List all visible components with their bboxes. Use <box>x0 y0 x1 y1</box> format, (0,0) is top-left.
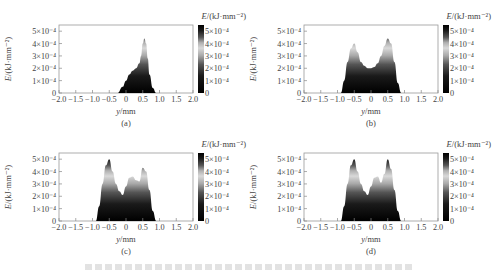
x-tick-label: −0.5 <box>347 223 362 232</box>
colorbar-tick-label: 4×10⁻⁴ <box>450 40 474 49</box>
colorbar-tick-label: 4×10⁻⁴ <box>205 168 229 177</box>
colorbar-tick-label: 5×10⁻⁴ <box>205 155 229 164</box>
x-tick-label: 0.5 <box>138 223 148 232</box>
colorbar-tick-label: 4×10⁻⁴ <box>205 40 229 49</box>
colorbar-label: E/(kJ·mm⁻²) <box>446 11 492 21</box>
x-tick-label: −1.5 <box>313 95 328 104</box>
x-tick-label: 0 <box>369 95 373 104</box>
x-tick-label: 0 <box>369 223 373 232</box>
y-tick-label: 5×10⁻⁴ <box>32 155 56 164</box>
x-tick-label: 1.0 <box>399 95 409 104</box>
x-tick-label: −0.5 <box>102 95 117 104</box>
y-tick-label: 2×10⁻⁴ <box>32 192 56 201</box>
colorbar-tick-label: 5×10⁻⁴ <box>450 155 474 164</box>
x-tick-label: 0 <box>124 95 128 104</box>
colorbar-tick-label: 5×10⁻⁴ <box>205 27 229 36</box>
y-tick-label: 1×10⁻⁴ <box>32 77 56 86</box>
panel-d: 01×10⁻⁴2×10⁻⁴3×10⁻⁴4×10⁻⁴5×10⁻⁴−2.0−1.5−… <box>245 128 494 258</box>
chart-svg: 01×10⁻⁴2×10⁻⁴3×10⁻⁴4×10⁻⁴5×10⁻⁴−2.0−1.5−… <box>0 128 249 258</box>
x-tick-label: 1.5 <box>416 223 426 232</box>
y-tick-label: 1×10⁻⁴ <box>277 205 301 214</box>
colorbar <box>198 153 204 221</box>
colorbar-tick-label: 3×10⁻⁴ <box>205 180 229 189</box>
x-tick-label: 0 <box>124 223 128 232</box>
x-tick-label: 1.5 <box>171 95 181 104</box>
y-tick-label: 3×10⁻⁴ <box>277 52 301 61</box>
colorbar-tick-label: 3×10⁻⁴ <box>450 52 474 61</box>
y-axis-label: E/(kJ·mm⁻²) <box>3 165 13 211</box>
x-tick-label: −1.5 <box>68 223 83 232</box>
colorbar <box>443 153 449 221</box>
x-tick-label: 2.0 <box>433 95 443 104</box>
colorbar-tick-label: 2×10⁻⁴ <box>450 64 474 73</box>
x-tick-label: 2.0 <box>188 223 198 232</box>
y-axis-label: E/(kJ·mm⁻²) <box>248 165 258 211</box>
x-tick-label: 0.5 <box>383 95 393 104</box>
panel-a: 01×10⁻⁴2×10⁻⁴3×10⁻⁴4×10⁻⁴5×10⁻⁴−2.0−1.5−… <box>0 0 249 130</box>
chart-svg: 01×10⁻⁴2×10⁻⁴3×10⁻⁴4×10⁻⁴5×10⁻⁴−2.0−1.5−… <box>245 128 494 258</box>
x-tick-label: −2.0 <box>52 223 67 232</box>
y-tick-label: 5×10⁻⁴ <box>32 27 56 36</box>
x-tick-label: −1.5 <box>313 223 328 232</box>
colorbar-tick-label: 3×10⁻⁴ <box>205 52 229 61</box>
x-tick-label: 1.5 <box>416 95 426 104</box>
y-tick-label: 3×10⁻⁴ <box>277 180 301 189</box>
x-axis-label: y/mm <box>115 106 136 116</box>
colorbar <box>443 25 449 93</box>
x-tick-label: 0.5 <box>383 223 393 232</box>
colorbar-tick-label: 2×10⁻⁴ <box>205 64 229 73</box>
x-tick-label: −1.0 <box>330 95 345 104</box>
figure-caption-illegible <box>85 264 415 270</box>
y-tick-label: 5×10⁻⁴ <box>277 27 301 36</box>
x-axis-label: y/mm <box>115 234 136 244</box>
x-tick-label: −1.0 <box>85 95 100 104</box>
colorbar-tick-label: 1×10⁻⁴ <box>205 77 229 86</box>
y-axis-label: E/(kJ·mm⁻²) <box>248 37 258 83</box>
y-tick-label: 1×10⁻⁴ <box>277 77 301 86</box>
x-tick-label: 0.5 <box>138 95 148 104</box>
x-tick-label: −2.0 <box>297 223 312 232</box>
panel-label: (a) <box>121 118 131 128</box>
y-tick-label: 3×10⁻⁴ <box>32 52 56 61</box>
y-axis-label: E/(kJ·mm⁻²) <box>3 37 13 83</box>
x-tick-label: 2.0 <box>188 95 198 104</box>
colorbar-tick-label: 0 <box>205 89 209 98</box>
x-axis-label: y/mm <box>360 234 381 244</box>
panel-label: (c) <box>121 246 131 256</box>
y-tick-label: 4×10⁻⁴ <box>277 40 301 49</box>
x-tick-label: 1.0 <box>399 223 409 232</box>
panel-label: (b) <box>366 118 376 128</box>
y-tick-label: 5×10⁻⁴ <box>277 155 301 164</box>
x-tick-label: 1.0 <box>154 223 164 232</box>
x-tick-label: 2.0 <box>433 223 443 232</box>
y-tick-label: 1×10⁻⁴ <box>32 205 56 214</box>
colorbar-tick-label: 0 <box>450 217 454 226</box>
panel-b: 01×10⁻⁴2×10⁻⁴3×10⁻⁴4×10⁻⁴5×10⁻⁴−2.0−1.5−… <box>245 0 494 130</box>
x-tick-label: −0.5 <box>347 95 362 104</box>
colorbar-label: E/(kJ·mm⁻²) <box>201 139 247 149</box>
chart-svg: 01×10⁻⁴2×10⁻⁴3×10⁻⁴4×10⁻⁴5×10⁻⁴−2.0−1.5−… <box>245 0 494 130</box>
colorbar-tick-label: 4×10⁻⁴ <box>450 168 474 177</box>
x-tick-label: −0.5 <box>102 223 117 232</box>
colorbar-tick-label: 1×10⁻⁴ <box>450 77 474 86</box>
colorbar-label: E/(kJ·mm⁻²) <box>201 11 247 21</box>
colorbar-tick-label: 0 <box>450 89 454 98</box>
panel-label: (d) <box>366 246 376 256</box>
y-tick-label: 4×10⁻⁴ <box>32 168 56 177</box>
y-tick-label: 2×10⁻⁴ <box>32 64 56 73</box>
y-tick-label: 4×10⁻⁴ <box>277 168 301 177</box>
y-tick-label: 2×10⁻⁴ <box>277 192 301 201</box>
colorbar-tick-label: 0 <box>205 217 209 226</box>
x-tick-label: −1.0 <box>85 223 100 232</box>
chart-svg: 01×10⁻⁴2×10⁻⁴3×10⁻⁴4×10⁻⁴5×10⁻⁴−2.0−1.5−… <box>0 0 249 130</box>
y-tick-label: 2×10⁻⁴ <box>277 64 301 73</box>
colorbar-tick-label: 2×10⁻⁴ <box>450 192 474 201</box>
colorbar-label: E/(kJ·mm⁻²) <box>446 139 492 149</box>
x-tick-label: −2.0 <box>52 95 67 104</box>
colorbar-tick-label: 5×10⁻⁴ <box>450 27 474 36</box>
colorbar <box>198 25 204 93</box>
x-tick-label: 1.0 <box>154 95 164 104</box>
x-tick-label: 1.5 <box>171 223 181 232</box>
x-tick-label: −1.0 <box>330 223 345 232</box>
colorbar-tick-label: 1×10⁻⁴ <box>205 205 229 214</box>
